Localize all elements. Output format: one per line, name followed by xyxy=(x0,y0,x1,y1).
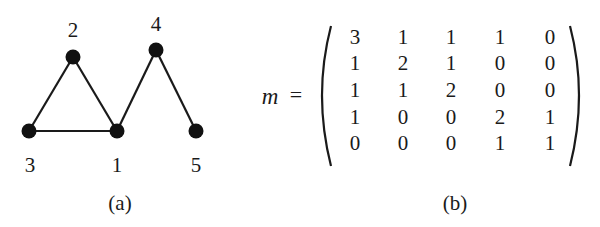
matrix-variable: m xyxy=(262,85,279,108)
edge-3-2 xyxy=(29,57,73,131)
node-1 xyxy=(110,124,125,139)
left-paren xyxy=(322,26,331,166)
matrix-cell-r3-c2: 1 xyxy=(398,80,409,101)
matrix-cell-r2-c4: 0 xyxy=(495,53,506,74)
node-5 xyxy=(189,124,204,139)
node-4 xyxy=(149,43,164,58)
node-label-2: 2 xyxy=(68,20,79,41)
matrix-cell-r2-c3: 1 xyxy=(446,53,457,74)
matrix-cell-r1-c5: 0 xyxy=(545,27,556,48)
node-2 xyxy=(66,50,81,65)
edge-4-5 xyxy=(156,50,196,131)
matrix-cell-r2-c1: 1 xyxy=(350,53,361,74)
matrix-cell-r1-c1: 3 xyxy=(350,27,361,48)
matrix-cell-r4-c3: 0 xyxy=(446,107,457,128)
node-label-4: 4 xyxy=(151,14,162,35)
matrix-cell-r4-c2: 0 xyxy=(398,107,409,128)
matrix-cell-r1-c3: 1 xyxy=(446,27,457,48)
right-paren xyxy=(570,26,579,166)
edge-2-1 xyxy=(73,57,117,131)
matrix-cell-r4-c4: 2 xyxy=(495,107,506,128)
node-3 xyxy=(22,124,37,139)
matrix-cell-r1-c4: 1 xyxy=(495,27,506,48)
edge-1-4 xyxy=(117,50,156,131)
matrix-cell-r3-c4: 0 xyxy=(495,80,506,101)
matrix-cell-r5-c1: 0 xyxy=(350,133,361,154)
matrix-cell-r1-c2: 1 xyxy=(398,27,409,48)
graph-edges xyxy=(29,50,196,131)
matrix-cell-r4-c1: 1 xyxy=(350,107,361,128)
node-label-3: 3 xyxy=(25,155,36,176)
matrix-cell-r5-c2: 0 xyxy=(398,133,409,154)
node-label-5: 5 xyxy=(191,155,202,176)
matrix-cell-r3-c1: 1 xyxy=(350,80,361,101)
matrix-cell-r3-c3: 2 xyxy=(446,80,457,101)
node-label-1: 1 xyxy=(112,155,123,176)
caption-b: (b) xyxy=(443,193,468,214)
equals-sign: = xyxy=(290,84,302,106)
matrix-cell-r2-c2: 2 xyxy=(398,53,409,74)
matrix-cell-r3-c5: 0 xyxy=(545,80,556,101)
matrix-cell-r5-c4: 1 xyxy=(495,133,506,154)
matrix-cell-r2-c5: 0 xyxy=(545,53,556,74)
matrix-cell-r4-c5: 1 xyxy=(545,107,556,128)
matrix-cell-r5-c5: 1 xyxy=(545,133,556,154)
matrix-cell-r5-c3: 0 xyxy=(446,133,457,154)
caption-a: (a) xyxy=(108,193,131,214)
figure-canvas xyxy=(0,0,600,227)
